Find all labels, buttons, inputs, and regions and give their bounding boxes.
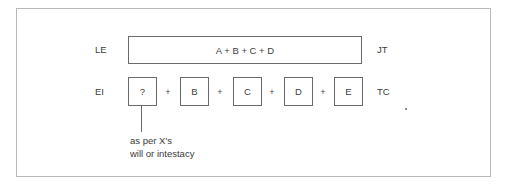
combined-estate-box: A + B + C + D [128,36,362,64]
share-box-unknown: ? [128,77,157,106]
annotation-line-1: as per X's [130,134,194,147]
plus-operator: + [317,86,329,98]
plus-operator: + [214,86,226,98]
row2-right-label: TC [377,86,390,98]
annotation-note: as per X's will or intestacy [130,134,194,160]
share-box-b: B [180,77,209,106]
share-box-c: C [233,77,262,106]
share-box-text: E [345,86,351,97]
share-box-text: ? [140,86,145,97]
row1-right-label: JT [377,44,388,56]
share-box-e: E [334,77,363,106]
annotation-connector-line [141,105,142,132]
share-box-d: D [284,77,313,106]
row1-left-label: LE [95,44,107,56]
share-box-text: C [244,86,251,97]
share-box-text: D [295,86,302,97]
annotation-line-2: will or intestacy [130,147,194,160]
plus-operator: + [266,86,278,98]
plus-operator: + [162,86,174,98]
share-box-text: B [191,86,197,97]
combined-estate-text: A + B + C + D [216,45,274,56]
row2-left-label: EI [95,86,104,98]
speck-mark [405,108,407,110]
